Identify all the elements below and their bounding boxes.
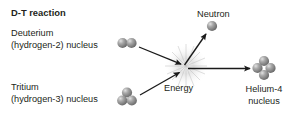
- d-t-fusion-reaction-diagram: D-T reaction Deuterium (hydrogen-2) nucl…: [0, 0, 293, 118]
- tritium-label-line2: (hydrogen-3) nucleus: [11, 94, 98, 106]
- tritium-label: Tritium (hydrogen-3) nucleus: [11, 82, 98, 105]
- helium-label-line1: Helium-4: [240, 84, 288, 96]
- deuterium-label: Deuterium (hydrogen-2) nucleus: [11, 28, 98, 51]
- tritium-label-line1: Tritium: [11, 82, 98, 94]
- energy-label: Energy: [164, 83, 193, 95]
- neutron-label: Neutron: [197, 9, 230, 21]
- helium-4-nucleus-icon: [252, 56, 275, 80]
- deuterium-label-line1: Deuterium: [11, 28, 98, 40]
- diagram-title: D-T reaction: [11, 7, 66, 19]
- helium-label-line2: nucleus: [240, 96, 288, 108]
- tritium-nucleus-icon: [117, 87, 137, 105]
- energy-burst-icon: [164, 44, 208, 88]
- neutron-particle-icon: [207, 21, 217, 31]
- deuterium-label-line2: (hydrogen-2) nucleus: [11, 40, 98, 52]
- deuterium-nucleus-icon: [117, 38, 136, 48]
- helium-label: Helium-4 nucleus: [240, 84, 288, 107]
